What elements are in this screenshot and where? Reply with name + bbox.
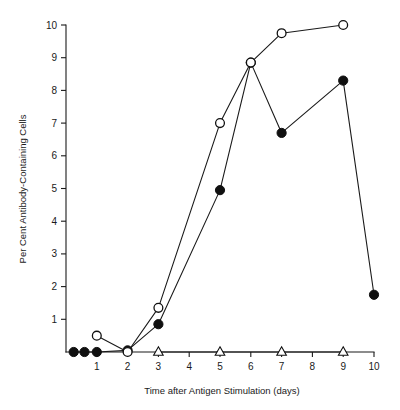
data-point-open-circle — [216, 119, 225, 128]
y-tick-label: 10 — [46, 20, 58, 31]
data-point-open-circle — [92, 331, 101, 340]
y-tick-label: 6 — [51, 150, 57, 161]
y-axis-title: Per Cent Antibody-Containing Cells — [17, 114, 28, 263]
y-tick-label: 3 — [51, 248, 57, 259]
x-tick-label: 1 — [94, 361, 100, 372]
y-tick-label: 7 — [51, 118, 57, 129]
x-tick-label: 4 — [186, 361, 192, 372]
data-point-open-circle — [339, 21, 348, 30]
y-tick-label: 4 — [51, 216, 57, 227]
data-point-filled-circle — [154, 320, 163, 329]
data-point-open-circle — [123, 348, 132, 357]
y-tick-label: 8 — [51, 85, 57, 96]
x-tick-label: 6 — [248, 361, 254, 372]
y-tick-label: 1 — [51, 314, 57, 325]
data-point-open-circle — [154, 303, 163, 312]
data-point-open-circle — [246, 58, 255, 67]
y-tick-label: 2 — [51, 281, 57, 292]
y-tick-label: 5 — [51, 183, 57, 194]
chart-background — [0, 0, 400, 410]
data-point-filled-circle — [277, 128, 286, 137]
x-tick-label: 2 — [125, 361, 131, 372]
data-point-open-circle — [277, 29, 286, 38]
x-tick-label: 5 — [217, 361, 223, 372]
data-point-filled-circle — [80, 347, 89, 356]
chart-figure: 12345678910 12345678910 Time after Antig… — [0, 0, 400, 410]
data-point-filled-circle — [369, 290, 378, 299]
data-point-filled-circle — [92, 347, 101, 356]
data-point-filled-circle — [339, 76, 348, 85]
x-tick-label: 7 — [279, 361, 285, 372]
chart-canvas: 12345678910 12345678910 Time after Antig… — [0, 0, 400, 410]
y-tick-label: 9 — [51, 52, 57, 63]
x-tick-label: 10 — [368, 361, 380, 372]
data-point-filled-circle — [69, 347, 78, 356]
data-point-filled-circle — [215, 186, 224, 195]
x-tick-label: 3 — [156, 361, 162, 372]
x-tick-label: 8 — [310, 361, 316, 372]
x-axis-title: Time after Antigen Stimulation (days) — [144, 385, 299, 396]
x-tick-label: 9 — [340, 361, 346, 372]
